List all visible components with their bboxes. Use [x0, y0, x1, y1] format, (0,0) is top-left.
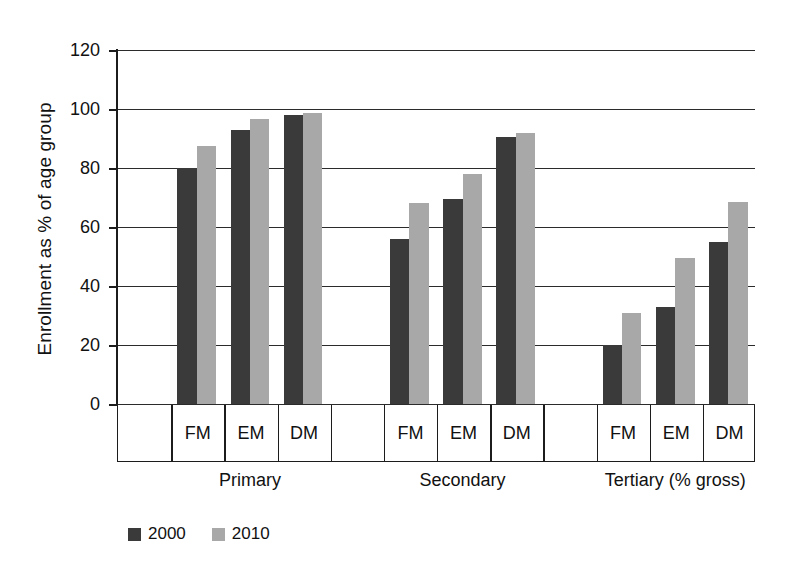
bar-tertiary-dm-2000 — [709, 242, 728, 404]
y-tick-label-80: 80 — [40, 158, 100, 179]
y-tick-20 — [109, 345, 118, 347]
bar-primary-em-2000 — [231, 130, 250, 404]
cell-divider-11 — [703, 405, 704, 461]
chart-legend: 20002010 — [128, 524, 270, 544]
y-tick-100 — [109, 109, 118, 111]
bar-tertiary-em-2000 — [656, 307, 675, 404]
bar-primary-dm-2000 — [284, 115, 303, 404]
bars-container — [117, 50, 755, 404]
bar-secondary-dm-2010 — [516, 133, 535, 404]
y-tick-60 — [109, 227, 118, 229]
bar-chart-figure: Enrollment as % of age group 02040608010… — [0, 0, 793, 576]
y-axis-tick-labels: 020406080100120 — [36, 0, 100, 576]
category-label-9-fm: FM — [610, 423, 636, 444]
legend-swatch-2000 — [128, 528, 141, 541]
legend-item-2000[interactable]: 2000 — [128, 524, 186, 544]
bar-tertiary-dm-2010 — [728, 202, 747, 404]
bar-primary-dm-2010 — [303, 113, 322, 404]
y-tick-label-120: 120 — [40, 40, 100, 61]
y-tick-label-0: 0 — [40, 394, 100, 415]
legend-item-2010[interactable]: 2010 — [212, 524, 270, 544]
category-label-band: FMEMDMFMEMDMFMEMDM — [117, 405, 755, 462]
bar-primary-fm-2010 — [197, 146, 216, 404]
category-label-1-fm: FM — [185, 423, 211, 444]
bar-primary-em-2010 — [250, 119, 269, 404]
bar-tertiary-em-2010 — [675, 258, 694, 404]
legend-label-2010: 2010 — [232, 524, 270, 544]
cell-divider-10 — [650, 405, 651, 461]
group-label-tertiary: Tertiary (% gross) — [605, 470, 746, 491]
cell-divider-9 — [597, 405, 598, 461]
cell-divider-8 — [543, 405, 544, 461]
cell-divider-3 — [278, 405, 279, 461]
cell-divider-7 — [490, 405, 491, 461]
bar-secondary-em-2000 — [443, 199, 462, 404]
bar-tertiary-fm-2010 — [622, 313, 641, 404]
cell-divider-2 — [224, 405, 225, 461]
cell-divider-4 — [331, 405, 332, 461]
bar-secondary-fm-2000 — [390, 239, 409, 404]
y-tick-label-20: 20 — [40, 335, 100, 356]
cell-divider-5 — [384, 405, 385, 461]
y-tick-0 — [109, 404, 118, 406]
bar-secondary-fm-2010 — [409, 203, 428, 404]
bar-primary-fm-2000 — [177, 168, 196, 404]
legend-swatch-2010 — [212, 528, 225, 541]
category-label-3-dm: DM — [290, 423, 318, 444]
category-label-6-em: EM — [450, 423, 477, 444]
bar-tertiary-fm-2000 — [603, 345, 622, 404]
group-label-primary: Primary — [219, 470, 281, 491]
group-label-secondary: Secondary — [420, 470, 506, 491]
y-tick-label-100: 100 — [40, 99, 100, 120]
bar-secondary-dm-2000 — [496, 137, 515, 404]
category-label-7-dm: DM — [503, 423, 531, 444]
bar-secondary-em-2010 — [463, 174, 482, 404]
legend-label-2000: 2000 — [148, 524, 186, 544]
y-tick-label-40: 40 — [40, 276, 100, 297]
y-tick-40 — [109, 286, 118, 288]
category-label-10-em: EM — [663, 423, 690, 444]
category-label-2-em: EM — [237, 423, 264, 444]
y-tick-120 — [109, 50, 118, 52]
category-label-5-fm: FM — [397, 423, 423, 444]
category-label-11-dm: DM — [715, 423, 743, 444]
y-tick-80 — [109, 168, 118, 170]
cell-divider-6 — [437, 405, 438, 461]
y-tick-label-60: 60 — [40, 217, 100, 238]
cell-divider-1 — [171, 405, 172, 461]
